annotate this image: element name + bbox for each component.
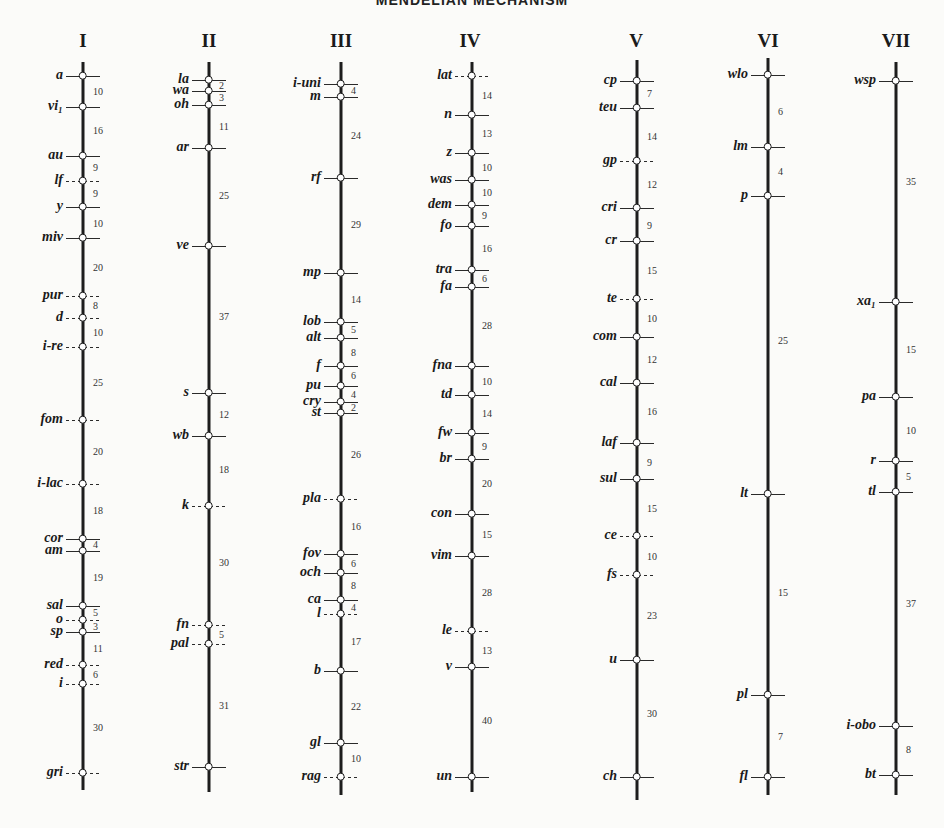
locus-marker-icon[interactable] [337, 93, 345, 101]
locus-marker-icon[interactable] [633, 475, 641, 483]
locus-marker-icon[interactable] [892, 488, 900, 496]
locus-marker-icon[interactable] [468, 283, 476, 291]
locus-marker-icon[interactable] [633, 104, 641, 112]
locus-marker-icon[interactable] [79, 292, 87, 300]
locus-marker-icon[interactable] [764, 691, 772, 699]
gene-label: k [182, 498, 189, 512]
locus-marker-icon[interactable] [205, 87, 213, 95]
locus-marker-icon[interactable] [468, 201, 476, 209]
locus-marker-icon[interactable] [79, 480, 87, 488]
locus-marker-icon[interactable] [79, 616, 87, 624]
locus-marker-icon[interactable] [337, 550, 345, 558]
locus-marker-icon[interactable] [633, 77, 641, 85]
locus-marker-icon[interactable] [468, 149, 476, 157]
locus-marker-icon[interactable] [337, 398, 345, 406]
locus-marker-icon[interactable] [468, 552, 476, 560]
locus-marker-icon[interactable] [764, 490, 772, 498]
locus-marker-icon[interactable] [79, 680, 87, 688]
locus-marker-icon[interactable] [468, 391, 476, 399]
locus-marker-icon[interactable] [892, 722, 900, 730]
locus-marker-icon[interactable] [633, 656, 641, 664]
map-distance: 16 [482, 244, 492, 254]
locus-marker-icon[interactable] [633, 439, 641, 447]
locus-marker-icon[interactable] [337, 382, 345, 390]
locus-marker-icon[interactable] [337, 569, 345, 577]
locus-marker-icon[interactable] [205, 763, 213, 771]
locus-marker-icon[interactable] [764, 192, 772, 200]
locus-marker-icon[interactable] [79, 547, 87, 555]
locus-marker-icon[interactable] [205, 640, 213, 648]
locus-marker-icon[interactable] [337, 362, 345, 370]
locus-marker-icon[interactable] [205, 432, 213, 440]
locus-marker-icon[interactable] [79, 103, 87, 111]
locus-marker-icon[interactable] [468, 455, 476, 463]
locus-marker-icon[interactable] [468, 627, 476, 635]
locus-marker-icon[interactable] [633, 295, 641, 303]
locus-marker-icon[interactable] [468, 176, 476, 184]
locus-marker-icon[interactable] [337, 596, 345, 604]
locus-marker-icon[interactable] [337, 174, 345, 182]
locus-marker-icon[interactable] [337, 610, 345, 618]
locus-marker-icon[interactable] [205, 144, 213, 152]
locus-marker-icon[interactable] [205, 242, 213, 250]
locus-marker-icon[interactable] [205, 621, 213, 629]
locus-marker-icon[interactable] [337, 667, 345, 675]
locus-marker-icon[interactable] [205, 101, 213, 109]
map-distance: 4 [351, 390, 356, 400]
locus-marker-icon[interactable] [633, 379, 641, 387]
locus-marker-icon[interactable] [79, 203, 87, 211]
locus-marker-icon[interactable] [79, 152, 87, 160]
locus-marker-icon[interactable] [633, 237, 641, 245]
locus-marker-icon[interactable] [468, 111, 476, 119]
locus-marker-icon[interactable] [468, 266, 476, 274]
map-distance: 7 [778, 732, 783, 742]
locus-marker-icon[interactable] [892, 298, 900, 306]
locus-marker-icon[interactable] [892, 457, 900, 465]
locus-marker-icon[interactable] [205, 389, 213, 397]
locus-marker-icon[interactable] [79, 602, 87, 610]
locus-marker-icon[interactable] [892, 77, 900, 85]
locus-marker-icon[interactable] [205, 76, 213, 84]
locus-marker-icon[interactable] [79, 661, 87, 669]
gene-label: i-re [43, 339, 63, 353]
locus-marker-icon[interactable] [337, 269, 345, 277]
locus-marker-icon[interactable] [337, 334, 345, 342]
locus-marker-icon[interactable] [79, 177, 87, 185]
locus-marker-icon[interactable] [468, 429, 476, 437]
locus-marker-icon[interactable] [633, 571, 641, 579]
locus-marker-icon[interactable] [205, 502, 213, 510]
locus-marker-icon[interactable] [337, 80, 345, 88]
locus-marker-icon[interactable] [892, 771, 900, 779]
locus-marker-icon[interactable] [79, 769, 87, 777]
locus-marker-icon[interactable] [468, 510, 476, 518]
locus-marker-icon[interactable] [79, 628, 87, 636]
locus-marker-icon[interactable] [79, 535, 87, 543]
locus-marker-icon[interactable] [468, 663, 476, 671]
locus-marker-icon[interactable] [79, 416, 87, 424]
locus-marker-icon[interactable] [337, 773, 345, 781]
locus-marker-icon[interactable] [764, 143, 772, 151]
locus-marker-icon[interactable] [892, 393, 900, 401]
locus-marker-icon[interactable] [79, 314, 87, 322]
locus-marker-icon[interactable] [633, 157, 641, 165]
locus-marker-icon[interactable] [468, 222, 476, 230]
locus-marker-icon[interactable] [337, 495, 345, 503]
locus-marker-icon[interactable] [79, 234, 87, 242]
map-distance: 10 [351, 754, 361, 764]
locus-marker-icon[interactable] [764, 71, 772, 79]
locus-marker-icon[interactable] [79, 343, 87, 351]
locus-marker-icon[interactable] [468, 362, 476, 370]
locus-marker-icon[interactable] [337, 739, 345, 747]
locus-marker-icon[interactable] [633, 773, 641, 781]
locus-marker-icon[interactable] [468, 72, 476, 80]
chromosome-axis [636, 60, 639, 800]
locus-marker-icon[interactable] [79, 72, 87, 80]
locus-marker-icon[interactable] [337, 409, 345, 417]
locus-marker-icon[interactable] [337, 318, 345, 326]
locus-marker-icon[interactable] [633, 204, 641, 212]
locus-marker-icon[interactable] [468, 773, 476, 781]
locus-marker-icon[interactable] [764, 773, 772, 781]
locus-marker-icon[interactable] [633, 333, 641, 341]
map-distance: 10 [93, 328, 103, 338]
locus-marker-icon[interactable] [633, 532, 641, 540]
